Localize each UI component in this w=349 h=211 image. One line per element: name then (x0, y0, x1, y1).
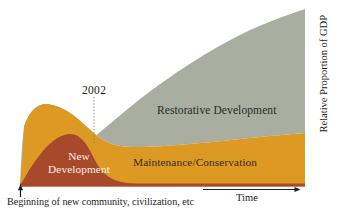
band-label-new-development: New Development (38, 150, 120, 175)
band-label-new-development-line2: Development (38, 163, 120, 176)
year-marker-label: 2002 (82, 84, 106, 97)
origin-caption: Beginning of new community, civilization… (7, 196, 194, 207)
band-label-new-development-line1: New (38, 150, 120, 163)
relative-proportion-of-gdp-area-chart: Restorative Development Maintenance/Cons… (0, 0, 349, 211)
y-axis-label: Relative Proportion of GDP (318, 15, 329, 133)
band-label-maintenance-conservation: Maintenance/Conservation (133, 156, 257, 169)
baseline-strip (20, 184, 305, 187)
band-label-restorative-development: Restorative Development (157, 104, 277, 117)
x-axis-label: Time (236, 192, 258, 204)
